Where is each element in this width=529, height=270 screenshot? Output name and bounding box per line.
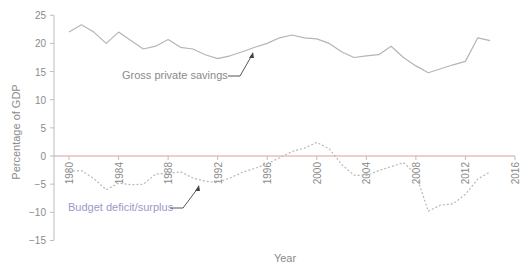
- x-tick-label: 1992: [213, 162, 224, 185]
- savings-line: [69, 25, 490, 73]
- x-axis-title: Year: [274, 252, 297, 264]
- y-tick-label: 0: [40, 151, 46, 162]
- y-axis-title: Percentage of GDP: [10, 84, 22, 179]
- y-tick-label: 5: [40, 123, 46, 134]
- y-tick-label: 25: [35, 10, 47, 21]
- x-tick-label: 2000: [312, 162, 323, 185]
- chart: 2520151050−5−10−15 198019841988199219962…: [0, 0, 529, 270]
- budget-arrow: [170, 188, 198, 208]
- x-tick-label: 2012: [460, 162, 471, 185]
- y-tick-label: 10: [35, 95, 47, 106]
- arrowhead-icon: [195, 185, 200, 191]
- x-axis: 1980198419881992199620002004200820122016: [54, 156, 521, 184]
- y-axis: 2520151050−5−10−15: [29, 10, 54, 246]
- x-tick-label: 2004: [361, 162, 372, 185]
- savings-arrow: [228, 55, 252, 76]
- series-lines: [69, 25, 490, 211]
- x-tick-label: 1988: [163, 162, 174, 185]
- annotations: Gross private savingsBudget deficit/surp…: [68, 52, 254, 213]
- x-tick-label: 1984: [114, 162, 125, 185]
- y-tick-label: −5: [35, 179, 47, 190]
- x-tick-label: 2016: [510, 162, 521, 185]
- savings-annotation: Gross private savings: [122, 69, 228, 81]
- arrowhead-icon: [249, 52, 254, 58]
- budget-annotation: Budget deficit/surplus: [68, 201, 174, 213]
- y-tick-label: 15: [35, 67, 47, 78]
- y-tick-label: 20: [35, 38, 47, 49]
- y-tick-label: −10: [29, 207, 46, 218]
- y-tick-label: −15: [29, 235, 46, 246]
- x-tick-label: 2008: [411, 162, 422, 185]
- x-tick-label: 1980: [64, 162, 75, 185]
